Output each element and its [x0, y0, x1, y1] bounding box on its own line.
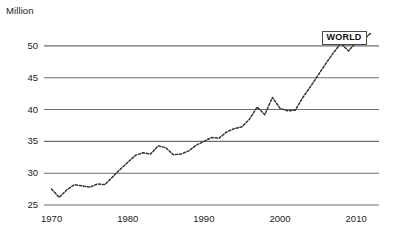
x-tick-label: 1990 — [184, 213, 224, 224]
y-tick-label: 50 — [12, 40, 38, 51]
y-tick-label: 25 — [12, 199, 38, 210]
x-tick-label: 2000 — [260, 213, 300, 224]
series-label-world: WORLD — [322, 31, 367, 45]
y-tick-label: 35 — [12, 135, 38, 146]
y-tick-label: 30 — [12, 167, 38, 178]
y-tick-label: 45 — [12, 72, 38, 83]
chart-container: Million 253035404550 1970198019902000201… — [0, 0, 397, 240]
x-tick-label: 2010 — [336, 213, 376, 224]
y-tick-label: 40 — [12, 104, 38, 115]
x-tick-label: 1970 — [32, 213, 72, 224]
x-tick-label: 1980 — [108, 213, 148, 224]
